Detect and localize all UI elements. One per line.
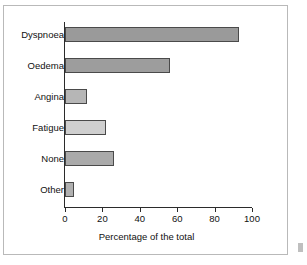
bar-angina <box>65 89 87 104</box>
figure-frame: Dyspnoea Oedema Angina Fatigue None Othe… <box>3 5 288 255</box>
x-tick-60 <box>177 208 178 212</box>
x-axis-line <box>64 207 252 208</box>
x-tick-label-60: 60 <box>162 213 192 224</box>
page-edge-mark <box>298 243 303 252</box>
x-tick-40 <box>140 208 141 212</box>
x-tick-label-100: 100 <box>237 213 267 224</box>
bar-none <box>65 151 114 166</box>
category-label-angina: Angina <box>6 92 64 102</box>
x-tick-80 <box>215 208 216 212</box>
category-label-none: None <box>6 154 64 164</box>
x-tick-0 <box>65 208 66 212</box>
bar-chart-plot-area: Dyspnoea Oedema Angina Fatigue None Othe… <box>4 6 289 256</box>
bar-fatigue <box>65 120 106 135</box>
bar-oedema <box>65 58 170 73</box>
x-tick-label-80: 80 <box>200 213 230 224</box>
y-axis-line <box>64 22 65 208</box>
x-axis-title: Percentage of the total <box>4 231 289 242</box>
bar-dyspnoea <box>65 27 239 42</box>
x-tick-100 <box>252 208 253 212</box>
category-label-fatigue: Fatigue <box>6 123 64 133</box>
category-label-dyspnoea: Dyspnoea <box>6 30 64 40</box>
x-tick-label-0: 0 <box>50 213 80 224</box>
x-tick-label-40: 40 <box>125 213 155 224</box>
x-tick-20 <box>102 208 103 212</box>
category-label-other: Other <box>6 185 64 195</box>
x-tick-label-20: 20 <box>87 213 117 224</box>
category-label-oedema: Oedema <box>6 61 64 71</box>
bar-other <box>65 182 74 197</box>
